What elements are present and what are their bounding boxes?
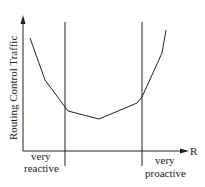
left-label-bottom: reactive (24, 162, 59, 174)
y-axis-label: Routing Control Traffic (7, 36, 19, 140)
right-label-bottom: proactive (145, 167, 186, 179)
traffic-curve (30, 30, 166, 119)
left-label-top: very (31, 150, 51, 162)
y-axis-arrow-icon (21, 15, 26, 24)
diagram: R Routing Control Traffic very reactive … (0, 0, 205, 187)
right-label-top: very (155, 154, 175, 166)
x-axis-arrow-icon (180, 149, 189, 154)
x-axis-label: R (190, 145, 198, 157)
